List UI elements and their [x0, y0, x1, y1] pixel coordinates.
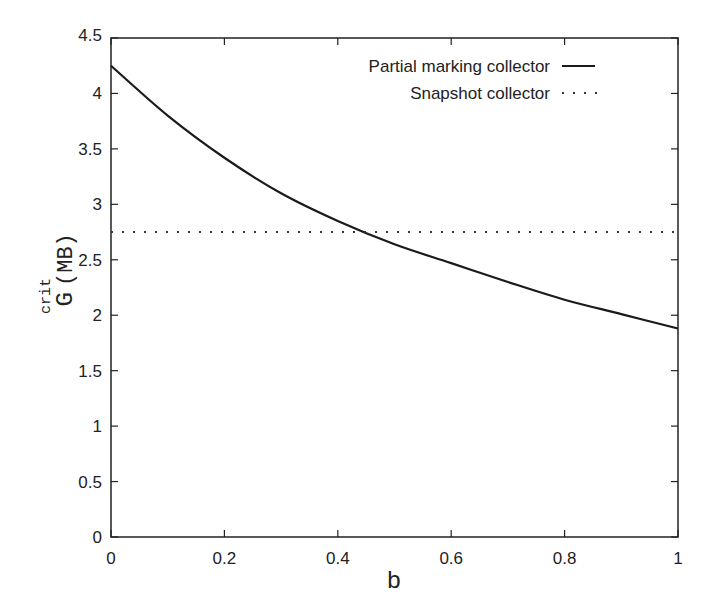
legend-label-snapshot: Snapshot collector	[410, 84, 550, 103]
y-tick-label: 1	[93, 417, 102, 436]
tick-labels: 00.20.40.60.8100.511.522.533.544.5	[78, 26, 682, 568]
series-partial-marking-line	[111, 66, 678, 329]
x-tick-label: 0.8	[553, 549, 577, 568]
legend-label-partial: Partial marking collector	[369, 57, 551, 76]
x-tick-label: 0	[106, 549, 115, 568]
chart: 00.20.40.60.8100.511.522.533.544.5 Parti…	[0, 0, 715, 612]
y-axis-title: G crit (MB)	[38, 233, 79, 314]
x-tick-label: 0.2	[213, 549, 237, 568]
y-tick-label: 2	[93, 306, 102, 325]
legend: Partial marking collector Snapshot colle…	[369, 57, 597, 103]
x-axis-title: b	[387, 566, 400, 593]
y-axis-title-sup: crit	[38, 278, 55, 314]
y-tick-label: 3	[93, 195, 102, 214]
x-tick-label: 0.6	[439, 549, 463, 568]
y-tick-label: 3.5	[78, 140, 102, 159]
y-tick-label: 2.5	[78, 251, 102, 270]
y-tick-label: 1.5	[78, 362, 102, 381]
x-tick-label: 0.4	[326, 549, 350, 568]
y-tick-label: 4	[93, 84, 102, 103]
y-axis-title-unit: (MB)	[54, 233, 79, 286]
x-tick-label: 1	[673, 549, 682, 568]
y-tick-label: 4.5	[78, 26, 102, 45]
y-tick-label: 0	[93, 528, 102, 547]
y-tick-label: 0.5	[78, 473, 102, 492]
axis-ticks	[111, 38, 678, 537]
y-axis-title-base: G	[52, 292, 79, 306]
plot-frame	[111, 38, 678, 537]
